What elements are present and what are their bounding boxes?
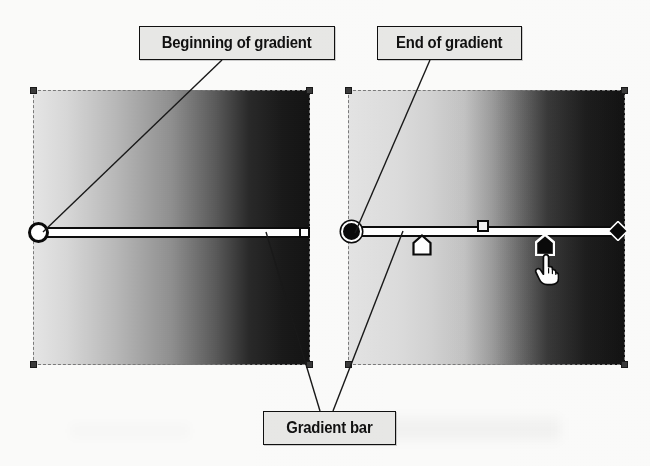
- selection-handle[interactable]: [30, 361, 37, 368]
- callout-gradient-bar: Gradient bar: [263, 411, 396, 445]
- selection-handle[interactable]: [345, 87, 352, 94]
- callout-beginning-of-gradient: Beginning of gradient: [139, 26, 335, 60]
- gradient-start-circle-marker[interactable]: [28, 222, 49, 243]
- gradient-end-square-marker[interactable]: [299, 227, 310, 238]
- gradient-midpoint-slider[interactable]: [477, 220, 489, 232]
- hand-pointer-cursor: [533, 252, 559, 286]
- gradient-end-diamond-marker[interactable]: [608, 221, 628, 241]
- paper-smudge: [370, 418, 560, 440]
- gradient-illustration: Beginning of gradient End of gradient Gr…: [0, 0, 650, 466]
- paper-smudge: [70, 424, 190, 438]
- selection-handle[interactable]: [621, 361, 628, 368]
- selection-handle[interactable]: [345, 361, 352, 368]
- gradient-start-circle-marker[interactable]: [341, 221, 362, 242]
- selection-handle[interactable]: [30, 87, 37, 94]
- left-gradient-bar[interactable]: [43, 227, 305, 238]
- selection-handle[interactable]: [621, 87, 628, 94]
- selection-handle[interactable]: [306, 361, 313, 368]
- callout-end-of-gradient: End of gradient: [377, 26, 522, 60]
- selection-handle[interactable]: [306, 87, 313, 94]
- callout-gradient-bar-label: Gradient bar: [286, 419, 372, 437]
- callout-end-of-gradient-label: End of gradient: [396, 34, 502, 52]
- callout-beginning-of-gradient-label: Beginning of gradient: [162, 34, 312, 52]
- color-stop-pentagon-hollow[interactable]: [412, 234, 432, 256]
